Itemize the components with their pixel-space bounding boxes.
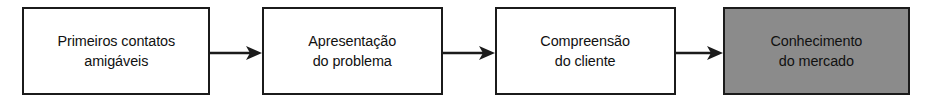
process-node-label: Primeiros contatos amigáveis [53, 31, 178, 71]
flow-arrow-3 [676, 44, 723, 62]
flow-arrow-1 [210, 44, 262, 62]
process-flow-diagram: Primeiros contatos amigáveis Apresentaçã… [0, 0, 934, 112]
process-node-conhecimento-do-mercado[interactable]: Conhecimento do mercado [723, 7, 910, 95]
process-node-compreensao-do-cliente[interactable]: Compreensão do cliente [495, 7, 676, 95]
process-node-primeiros-contatos[interactable]: Primeiros contatos amigáveis [22, 7, 210, 95]
process-node-label: Compreensão do cliente [537, 31, 634, 71]
process-node-label: Apresentação do problema [305, 31, 400, 71]
process-node-apresentacao-do-problema[interactable]: Apresentação do problema [262, 7, 443, 95]
flow-arrow-2 [443, 44, 495, 62]
process-node-label: Conhecimento do mercado [767, 31, 866, 71]
